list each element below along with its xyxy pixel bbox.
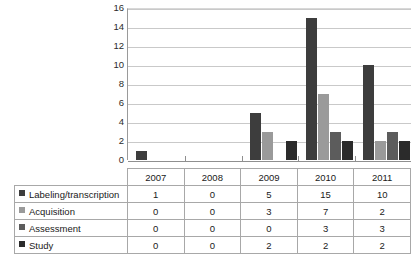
y-axis-tick-label: 16 — [98, 3, 124, 13]
bar — [318, 94, 329, 161]
table-cell-value: 2 — [354, 237, 411, 254]
table-cell-value: 3 — [354, 220, 411, 237]
series-label: Labeling/transcription — [29, 189, 119, 200]
table-row: Labeling/transcription1051510 — [15, 186, 411, 203]
bar-group-inner — [242, 9, 299, 160]
bar-group-inner — [298, 9, 355, 160]
bar-group — [242, 9, 299, 160]
category-tick — [185, 156, 186, 161]
table-cell-value: 0 — [127, 220, 184, 237]
bar — [262, 132, 273, 161]
table-header-row: 20072008200920102011 — [15, 169, 411, 186]
bar — [330, 132, 341, 161]
bar-groups — [128, 9, 411, 160]
table-column-header: 2010 — [297, 169, 354, 186]
bar-group-inner — [355, 9, 412, 160]
y-axis: 0246810121416 — [98, 8, 124, 160]
y-axis-tick-label: 2 — [98, 136, 124, 146]
table-row: Study00222 — [15, 237, 411, 254]
y-axis-tick-label: 4 — [98, 117, 124, 127]
series-label: Assessment — [29, 223, 81, 234]
category-tick — [298, 156, 299, 161]
table-cell-value: 0 — [184, 186, 241, 203]
table-row: Acquisition00372 — [15, 203, 411, 220]
chart-figure: 0246810121416 20072008200920102011 Label… — [0, 0, 418, 272]
table-body: Labeling/transcription1051510Acquisition… — [15, 186, 411, 254]
table-cell-value: 0 — [127, 237, 184, 254]
bar-group — [185, 9, 242, 160]
table-cell-value: 2 — [297, 237, 354, 254]
category-tick — [242, 156, 243, 161]
series-label: Acquisition — [29, 206, 75, 217]
table-column-header: 2008 — [184, 169, 241, 186]
series-legend-cell: Assessment — [15, 220, 128, 237]
bar-group-inner — [185, 9, 242, 160]
bar-group — [355, 9, 412, 160]
legend-swatch-icon — [19, 241, 25, 247]
data-table: 20072008200920102011 Labeling/transcript… — [14, 168, 411, 254]
bar-group-inner — [128, 9, 185, 160]
bar — [363, 65, 374, 160]
bar — [387, 132, 398, 161]
y-axis-tick-label: 8 — [98, 79, 124, 89]
table-cell-value: 0 — [241, 220, 298, 237]
bar — [286, 141, 297, 160]
y-axis-tick-label: 12 — [98, 41, 124, 51]
table-cell-value: 15 — [297, 186, 354, 203]
series-legend-cell: Study — [15, 237, 128, 254]
table-cell-value: 2 — [241, 237, 298, 254]
table-cell-value: 3 — [241, 203, 298, 220]
axis-baseline — [128, 161, 411, 162]
series-legend-cell: Acquisition — [15, 203, 128, 220]
category-tick — [355, 156, 356, 161]
table-column-header: 2009 — [241, 169, 298, 186]
table-corner-cell — [15, 169, 128, 186]
table-cell-value: 0 — [184, 203, 241, 220]
table-head: 20072008200920102011 — [15, 169, 411, 186]
y-axis-tick-label: 0 — [98, 155, 124, 165]
bar — [342, 141, 353, 160]
y-axis-tick-label: 6 — [98, 98, 124, 108]
bar-group — [298, 9, 355, 160]
table-cell-value: 0 — [184, 237, 241, 254]
table-cell-value: 2 — [354, 203, 411, 220]
series-legend-cell: Labeling/transcription — [15, 186, 128, 203]
bar — [136, 151, 147, 161]
bar — [375, 141, 386, 160]
table-cell-value: 5 — [241, 186, 298, 203]
table-column-header: 2011 — [354, 169, 411, 186]
table-cell-value: 7 — [297, 203, 354, 220]
plot-area — [127, 8, 411, 160]
bar — [306, 18, 317, 161]
table-cell-value: 1 — [127, 186, 184, 203]
bar — [399, 141, 410, 160]
bar — [250, 113, 261, 161]
bar-group — [128, 9, 185, 160]
table-cell-value: 0 — [127, 203, 184, 220]
legend-swatch-icon — [19, 207, 25, 213]
legend-swatch-icon — [19, 224, 25, 230]
y-axis-tick-label: 14 — [98, 22, 124, 32]
table-row: Assessment00033 — [15, 220, 411, 237]
table-cell-value: 10 — [354, 186, 411, 203]
table-cell-value: 3 — [297, 220, 354, 237]
table-cell-value: 0 — [184, 220, 241, 237]
bar-chart: 0246810121416 — [0, 8, 418, 172]
table-column-header: 2007 — [127, 169, 184, 186]
y-axis-tick-label: 10 — [98, 60, 124, 70]
legend-swatch-icon — [19, 190, 25, 196]
series-label: Study — [29, 240, 53, 251]
